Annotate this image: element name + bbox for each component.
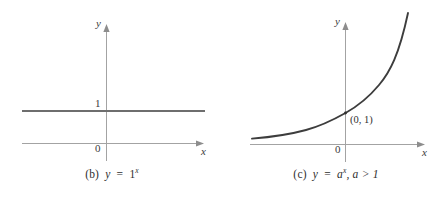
panel-b-constant-function: y x 1 0 (b) y = 1x: [0, 0, 224, 200]
panel-c-exponential-function: y x 0 (0, 1) (c) y = ax, a > 1: [224, 0, 448, 200]
origin-label-c: 0: [335, 143, 341, 155]
caption-prefix-b: (b): [85, 168, 99, 180]
origin-label-b: 0: [95, 142, 101, 154]
x-axis-label-c: x: [422, 146, 427, 158]
x-axis-label-b: x: [201, 145, 206, 157]
caption-equals-c: =: [324, 168, 331, 180]
y-tick-label-one-b: 1: [95, 97, 101, 109]
caption-panel-b: (b) y = 1x: [0, 168, 224, 180]
y-axis-label-b: y: [96, 17, 101, 29]
y-axis-c: [342, 22, 348, 162]
caption-exponent-b: x: [135, 166, 139, 175]
y-axis-b: [103, 24, 109, 161]
exponential-function-figure: y x 1 0 (b) y = 1x: [0, 0, 448, 200]
caption-lhs-c: y: [313, 168, 318, 180]
caption-panel-c: (c) y = ax, a > 1: [224, 168, 448, 180]
caption-prefix-c: (c): [293, 168, 306, 180]
caption-lhs-b: y: [105, 168, 110, 180]
caption-condition-c: , a > 1: [346, 168, 378, 180]
curve-exponential: [252, 13, 408, 139]
y-axis-label-c: y: [335, 15, 340, 27]
caption-equals-b: =: [117, 168, 124, 180]
point-label-0-1: (0, 1): [350, 114, 373, 125]
point-marker-0-1: [344, 112, 347, 115]
x-axis-b: [22, 140, 204, 146]
